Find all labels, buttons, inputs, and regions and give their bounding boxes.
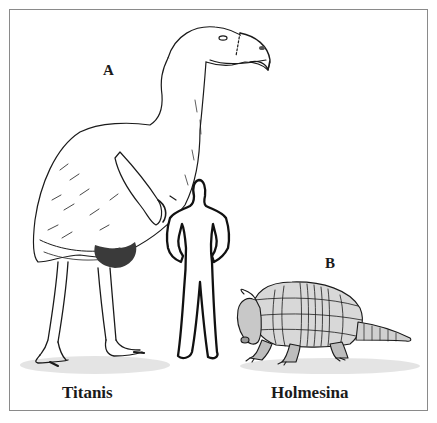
panel-letter-b: B bbox=[325, 255, 335, 272]
species-label-titanis: Titanis bbox=[62, 383, 113, 403]
ground-shadow bbox=[20, 356, 420, 374]
titanis-illustration bbox=[34, 27, 270, 366]
holmesina-illustration bbox=[237, 282, 410, 365]
species-label-holmesina: Holmesina bbox=[271, 383, 348, 403]
illustration bbox=[0, 0, 437, 423]
panel-letter-a: A bbox=[103, 62, 114, 79]
